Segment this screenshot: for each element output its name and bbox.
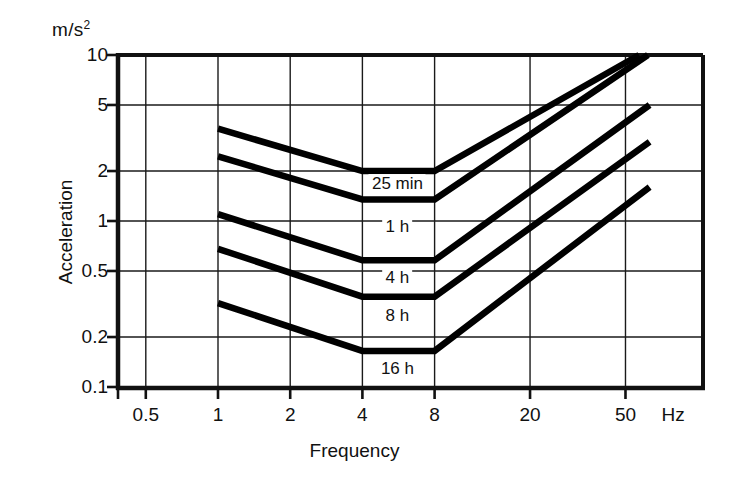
y-axis-tick-labels: 105210.50.20.1 [42,0,108,488]
x-axis-tick-label: 4 [357,404,368,426]
curve-label: 4 h [383,268,413,288]
vibration-exposure-chart: m/s2 Acceleration 105210.50.20.1 0.51248… [0,0,733,488]
x-axis-tick-label: 1 [213,404,224,426]
y-axis-tick-label: 0.2 [46,326,108,348]
curve-25-min [218,55,639,171]
x-axis-title: Frequency [0,440,733,462]
y-axis-tick-label: 5 [46,94,108,116]
y-axis-tick-label: 0.5 [46,260,108,282]
curve-label: 1 h [383,217,413,237]
x-axis-tick-label: 0.5 [133,404,159,426]
y-axis-tick-label: 1 [46,210,108,232]
x-axis-title-text: Frequency [310,440,400,461]
curve-8-h [218,142,650,297]
y-axis-tick-label: 0.1 [46,376,108,398]
x-axis-tick-label: 2 [285,404,296,426]
x-axis-tick-label: 8 [429,404,440,426]
exposure-limit-curves [218,55,650,351]
curve-label: 25 min [369,174,426,194]
y-axis-tick-label: 2 [46,160,108,182]
y-axis-tick-label: 10 [46,44,108,66]
curve-label: 8 h [383,306,413,326]
curve-1-h [218,55,648,199]
x-axis-tick-label: 50 [615,404,636,426]
x-axis-unit-label: Hz [661,404,684,426]
x-axis-tick-label: 20 [519,404,540,426]
curve-label: 16 h [378,359,417,379]
